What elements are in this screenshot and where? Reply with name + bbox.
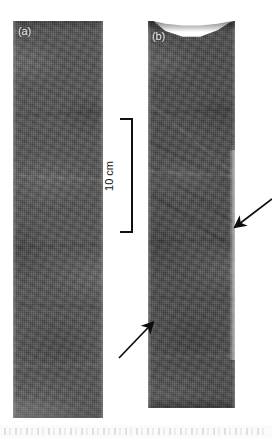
figure-canvas: (a) 10 cm (b) xyxy=(0,0,272,438)
scale-bar-line xyxy=(131,118,133,233)
arrow-upper xyxy=(225,192,272,237)
scale-bar-label: 10 cm xyxy=(104,161,115,191)
bottom-caption-band xyxy=(0,425,272,438)
caption-smear xyxy=(4,428,268,435)
core-slab-a xyxy=(13,21,103,418)
panel-label-a: (a) xyxy=(18,26,31,37)
panel-label-b: (b) xyxy=(152,31,165,42)
arrow-lower xyxy=(116,314,164,362)
core-slab-a-surface xyxy=(13,21,103,418)
slab-edge-shading xyxy=(13,21,103,418)
scale-bar-tick-bottom xyxy=(120,231,133,233)
scale-bar: 10 cm xyxy=(117,118,135,233)
